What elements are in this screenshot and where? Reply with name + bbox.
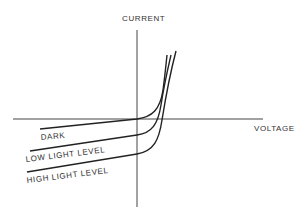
dark-curve-label: DARK bbox=[40, 131, 65, 142]
dark-curve bbox=[40, 55, 167, 129]
iv-curve-diagram: CURRENT VOLTAGE DARK LOW LIGHT LEVEL HIG… bbox=[0, 0, 305, 217]
high-light-curve-label: HIGH LIGHT LEVEL bbox=[26, 166, 109, 185]
voltage-axis-label: VOLTAGE bbox=[254, 124, 295, 133]
current-axis-label: CURRENT bbox=[122, 14, 165, 23]
